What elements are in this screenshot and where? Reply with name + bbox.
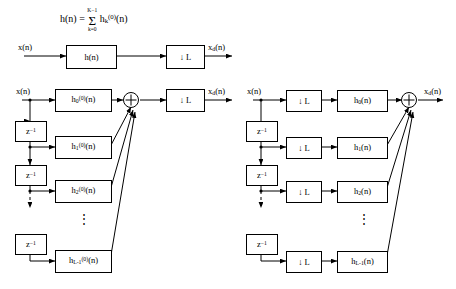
right-output-label: xd(n) <box>424 87 441 97</box>
left-output-label: xd(n) <box>208 87 225 97</box>
right-downsampler-box-3: ↓ L <box>286 251 322 273</box>
delay-label: z−1 <box>26 240 36 249</box>
left-delay-box-3: z−1 <box>15 234 47 255</box>
right-delay-box-1: z−1 <box>246 121 278 142</box>
right-filter-box-1: h1(n) <box>337 137 388 159</box>
figure-canvas: h(n) = K−1 Σ k=0 hk(0)(n) x(n) h(n) ↓ L … <box>0 0 456 289</box>
delay-label: z−1 <box>26 171 36 180</box>
right-filter-box-L-1: hL-1(n) <box>337 251 388 273</box>
left-downsampler-box: ↓ L <box>166 89 205 112</box>
summation-operator: K−1 Σ k=0 <box>87 8 97 32</box>
right-downsampler-box-2: ↓ L <box>286 181 322 203</box>
top-input-label: x(n) <box>18 43 32 52</box>
right-delay-box-3: z−1 <box>246 234 278 255</box>
top-filter-box: h(n) <box>66 45 117 69</box>
right-downsampler-box-0: ↓ L <box>286 90 322 112</box>
right-vertical-dots: ⋮ <box>358 213 370 225</box>
equation-rhs: hk(0)(n) <box>100 13 128 24</box>
summation-lower-limit: k=0 <box>87 27 97 33</box>
right-filter-box-2: h2(n) <box>337 181 388 203</box>
right-downsampler-box-1: ↓ L <box>286 137 322 159</box>
left-filter-box-1: h1(0)(n) <box>55 136 112 159</box>
left-filter-box-L-1: hL-1(0)(n) <box>55 250 112 273</box>
equation-lhs: h(n) = <box>60 13 85 24</box>
top-downsampler-box: ↓ L <box>166 45 205 69</box>
left-delay-box-1: z−1 <box>15 121 47 142</box>
delay-label: z−1 <box>257 171 267 180</box>
delay-label: z−1 <box>257 127 267 136</box>
left-filter-box-2: h2(0)(n) <box>55 180 112 203</box>
delay-label: z−1 <box>26 127 36 136</box>
left-filter-box-0: h0(0)(n) <box>55 89 112 112</box>
delay-label: z−1 <box>257 240 267 249</box>
left-delay-box-2: z−1 <box>15 165 47 186</box>
left-input-label: x(n) <box>16 87 30 96</box>
right-delay-box-2: z−1 <box>246 165 278 186</box>
top-output-label: xd(n) <box>208 43 225 53</box>
left-vertical-dots: ⋮ <box>78 213 90 225</box>
right-filter-box-0: h0(n) <box>337 90 388 112</box>
right-input-label: x(n) <box>247 87 261 96</box>
equation: h(n) = K−1 Σ k=0 hk(0)(n) <box>60 8 128 32</box>
